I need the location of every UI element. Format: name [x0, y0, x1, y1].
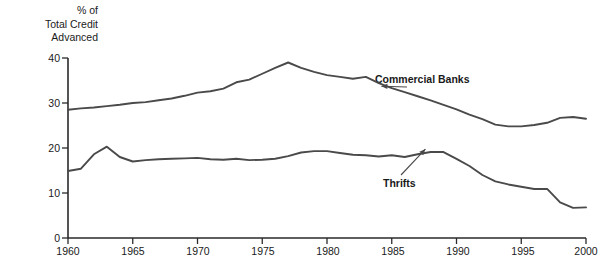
- line-commercial-banks: [68, 63, 586, 127]
- chart-container: % of Total Credit Advanced 40 30 20 10 0…: [0, 0, 609, 266]
- plot-area: [0, 0, 609, 266]
- axis-lines: [68, 58, 586, 238]
- line-thrifts: [68, 147, 586, 208]
